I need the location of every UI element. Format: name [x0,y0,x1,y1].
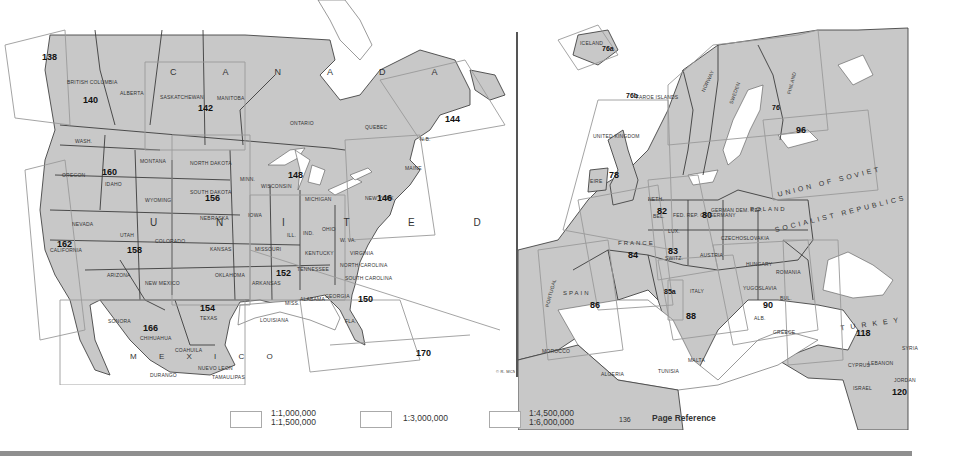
page-ref-154[interactable]: 154 [200,303,215,313]
page-ref-156[interactable]: 156 [205,193,220,203]
page-ref-142[interactable]: 142 [198,103,213,113]
page-ref-138[interactable]: 138 [42,52,57,62]
region-label: Ind. [303,230,314,236]
region-label: Sonora [108,318,131,324]
legend-label: 1:3,000,000 [403,414,448,423]
page-ref-144[interactable]: 144 [445,114,460,124]
page-ref-160[interactable]: 160 [102,167,117,177]
region-label: Kentucky [305,250,334,256]
country-label: Morocco [542,348,570,354]
country-label: Romania [776,269,801,275]
legend-label: 1:4,500,000 1:6,000,000 [529,409,574,427]
region-label: Michigan [305,196,332,202]
region-label: Utah [120,232,134,238]
legend-label: 1:1,000,000 1:1,500,000 [271,409,316,427]
page-ref-90[interactable]: 90 [763,300,773,310]
country-label: Israel [853,385,872,391]
country-label: Greece [773,329,795,335]
region-label: Texas [200,315,217,321]
footer-bar [0,451,912,456]
north-america-map: C A N A D A U N I T E D S T A T E S M E … [0,0,515,385]
page-ref-96[interactable]: 96 [796,125,806,135]
page-ref-146[interactable]: 146 [377,193,392,203]
map-credit: © R. MCN. [496,369,515,374]
region-label: N.B. [420,136,431,142]
region-label: Coahuila [175,347,202,353]
page-ref-76b[interactable]: 76b [626,92,638,99]
country-label: Syria [902,345,918,351]
page-ref-148[interactable]: 148 [288,170,303,180]
region-label: Nuevo Leon [198,365,233,371]
map-legend: 1:1,000,000 1:1,500,000 1:3,000,000 1:4,… [0,408,960,438]
region-label: Ohio [322,226,336,232]
region-label: Durango [150,372,177,378]
region-label: Missouri [255,246,281,252]
page-ref-140[interactable]: 140 [83,95,98,105]
page-ref-88[interactable]: 88 [686,311,696,321]
country-label: Malta [688,357,705,363]
country-label: Bul. [780,295,792,301]
country-label: Austria [700,252,723,258]
region-label: Ill. [287,232,296,238]
region-label: New Mexico [145,280,180,286]
region-label: Maine [405,165,422,171]
region-label: Montana [140,158,166,164]
page-ref-76[interactable]: 76 [772,104,780,111]
region-label: Nebraska [200,215,229,221]
page-ref-86[interactable]: 86 [590,300,600,310]
region-label: Miss. [285,300,300,306]
region-label: Tennessee [297,266,329,272]
page-ref-150[interactable]: 150 [358,294,373,304]
region-label: British Columbia [67,79,117,85]
country-label: Iceland [580,40,603,46]
page-ref-85a[interactable]: 85a [664,288,676,295]
page-ref-170[interactable]: 170 [416,348,431,358]
page-ref-158[interactable]: 158 [127,245,142,255]
region-label: Chihuahua [140,335,172,341]
page-ref-83[interactable]: 83 [668,246,678,256]
country-label: Italy [690,288,704,294]
page-ref-152[interactable]: 152 [276,268,291,278]
page-ref-162[interactable]: 162 [57,239,72,249]
page-ref-82[interactable]: 82 [657,206,667,216]
page-ref-80[interactable]: 80 [702,210,712,220]
europe-land [518,0,960,430]
page-ref-78[interactable]: 78 [609,170,619,180]
country-label: France [618,240,655,246]
country-label: Jordan [894,377,916,383]
region-label: North Dakota [190,160,232,166]
page-ref-166[interactable]: 166 [143,323,158,333]
page-ref-84[interactable]: 84 [628,250,638,260]
legend-swatch-1-3m [360,411,392,428]
page-ref-legend-label: Page Reference [652,414,716,423]
country-label: Alb. [754,315,766,321]
region-label: Idaho [105,181,122,187]
region-label: Ontario [290,120,314,126]
page-ref-120[interactable]: 120 [892,387,907,397]
region-label: Wash. [75,138,92,144]
region-label: Oregon [62,172,85,178]
region-label: Arizona [107,272,131,278]
page-ref-76a[interactable]: 76a [602,45,614,52]
country-label: Hungary [746,261,772,267]
region-label: Virginia [350,250,374,256]
region-label: Oklahoma [215,272,245,278]
region-label: Wisconsin [261,183,292,189]
page-ref-118[interactable]: 118 [856,328,871,338]
page-ref-sample: 136 [619,415,631,424]
country-label: Yugoslavia [743,285,777,291]
country-label: Cyprus [848,362,870,368]
region-label: Fla. [345,318,356,324]
country-label-canada: C A N A D A [170,67,460,77]
region-label: Tamaulipas [212,374,245,380]
region-label: North Carolina [340,262,387,268]
region-label: Manitoba [217,95,245,101]
region-label: Arkansas [252,280,281,286]
region-label: South Carolina [345,275,392,281]
region-label: Kansas [210,246,232,252]
country-label: Algeria [601,371,624,377]
legend-swatch-1-4.5m [489,411,521,428]
region-label: W. Va. [340,237,356,243]
country-label: Czechoslovakia [721,235,769,241]
region-label: Iowa [248,212,262,218]
